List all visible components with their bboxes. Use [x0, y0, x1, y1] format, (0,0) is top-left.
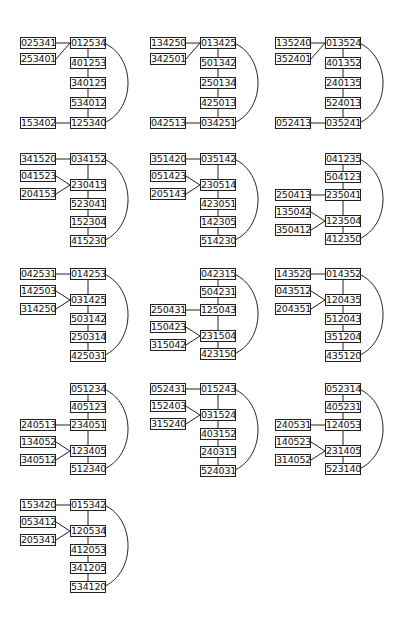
center-node: 504123 — [325, 171, 361, 183]
center-node: 523041 — [70, 198, 106, 210]
left-node: 042513 — [150, 117, 186, 129]
center-node: 231405 — [325, 445, 361, 457]
arc-connector — [104, 274, 128, 356]
permutation-diagram: 0143521204355120433512044351201435200435… — [275, 268, 400, 378]
center-node: 142305 — [200, 216, 236, 228]
left-node: 134250 — [150, 37, 186, 49]
center-node: 423051 — [200, 198, 236, 210]
permutation-diagram: 0134255013422501344250130342511342503425… — [150, 37, 275, 147]
arc-connector — [104, 43, 128, 123]
center-node: 125340 — [70, 117, 106, 129]
center-node: 524031 — [200, 465, 236, 477]
left-node: 253401 — [20, 53, 56, 65]
center-node: 015243 — [200, 383, 236, 395]
center-node: 231504 — [200, 330, 236, 342]
arc-connector — [104, 389, 128, 469]
permutation-diagram: 0512344051232340511234055123402405131340… — [20, 383, 145, 493]
center-node: 401253 — [70, 57, 106, 69]
left-node: 025341 — [20, 37, 56, 49]
center-node: 042315 — [200, 268, 236, 280]
center-node: 235041 — [325, 189, 361, 201]
permutation-diagram: 0152430315244031522403155240310524311524… — [150, 383, 275, 493]
center-node: 405123 — [70, 401, 106, 413]
center-node: 524013 — [325, 97, 361, 109]
left-node: 153420 — [20, 499, 56, 511]
center-node: 034152 — [70, 153, 106, 165]
center-node: 031425 — [70, 294, 106, 306]
center-node: 504231 — [200, 286, 236, 298]
center-node: 534012 — [70, 97, 106, 109]
center-node: 014253 — [70, 268, 106, 280]
center-node: 120534 — [70, 525, 106, 537]
left-node: 135240 — [275, 37, 311, 49]
permutation-diagram: 0142530314255031422503144250310425311425… — [20, 268, 145, 378]
left-node: 205341 — [20, 534, 56, 546]
left-node: 315240 — [150, 418, 186, 430]
left-node: 351420 — [150, 153, 186, 165]
center-node: 425013 — [200, 97, 236, 109]
arc-connector — [359, 389, 383, 469]
center-node: 035241 — [325, 117, 361, 129]
center-node: 340125 — [70, 77, 106, 89]
center-node: 425031 — [70, 350, 106, 362]
center-node: 401352 — [325, 57, 361, 69]
center-node: 230415 — [70, 179, 106, 191]
left-node: 250431 — [150, 304, 186, 316]
arc-connector — [104, 159, 128, 241]
center-node: 012534 — [70, 37, 106, 49]
center-node: 014352 — [325, 268, 361, 280]
center-node: 013524 — [325, 37, 361, 49]
left-node: 134052 — [20, 436, 56, 448]
center-node: 031524 — [200, 409, 236, 421]
permutation-diagram: 0135244013522401355240130352411352403524… — [275, 37, 400, 147]
left-node: 240513 — [20, 419, 56, 431]
center-node: 501342 — [200, 57, 236, 69]
left-node: 204153 — [20, 188, 56, 200]
permutation-diagram: 0341522304155230411523044152303415200415… — [20, 153, 145, 263]
left-node: 135042 — [275, 206, 311, 218]
center-node: 035142 — [200, 153, 236, 165]
left-node: 240531 — [275, 419, 311, 431]
center-node: 250314 — [70, 331, 106, 343]
center-node: 152304 — [70, 216, 106, 228]
center-node: 405231 — [325, 401, 361, 413]
left-node: 052431 — [150, 383, 186, 395]
center-node: 412350 — [325, 233, 361, 245]
left-node: 052413 — [275, 117, 311, 129]
center-node: 250134 — [200, 77, 236, 89]
left-node: 250413 — [275, 189, 311, 201]
left-node: 314052 — [275, 454, 311, 466]
permutation-diagram: 0523144052311240532314055231402405311405… — [275, 383, 400, 493]
left-node: 152403 — [150, 400, 186, 412]
left-node: 150423 — [150, 321, 186, 333]
center-node: 415230 — [70, 235, 106, 247]
left-node: 051423 — [150, 170, 186, 182]
center-node: 123504 — [325, 215, 361, 227]
left-node: 340512 — [20, 454, 56, 466]
center-node: 523140 — [325, 463, 361, 475]
center-node: 240315 — [200, 446, 236, 458]
center-node: 015342 — [70, 499, 106, 511]
arc-connector — [104, 505, 128, 587]
left-node: 142503 — [20, 285, 56, 297]
left-node: 341520 — [20, 153, 56, 165]
left-node: 342501 — [150, 53, 186, 65]
center-node: 125043 — [200, 304, 236, 316]
left-node: 041523 — [20, 170, 56, 182]
left-node: 314250 — [20, 303, 56, 315]
center-node: 503142 — [70, 313, 106, 325]
left-node: 204351 — [275, 303, 311, 315]
left-node: 143520 — [275, 268, 311, 280]
center-node: 034251 — [200, 117, 236, 129]
permutation-diagram: 0125344012533401255340121253400253412534… — [20, 37, 145, 147]
left-node: 043512 — [275, 285, 311, 297]
center-node: 120435 — [325, 294, 361, 306]
permutation-diagram: 0423155042311250432315044231502504311504… — [150, 268, 275, 378]
permutation-diagram: 0153421205344120533412055341201534200534… — [20, 499, 145, 609]
center-node: 403152 — [200, 428, 236, 440]
arc-connector — [359, 274, 383, 356]
arc-connector — [359, 159, 383, 239]
center-node: 512340 — [70, 463, 106, 475]
arc-connector — [234, 389, 258, 471]
center-node: 124053 — [325, 419, 361, 431]
